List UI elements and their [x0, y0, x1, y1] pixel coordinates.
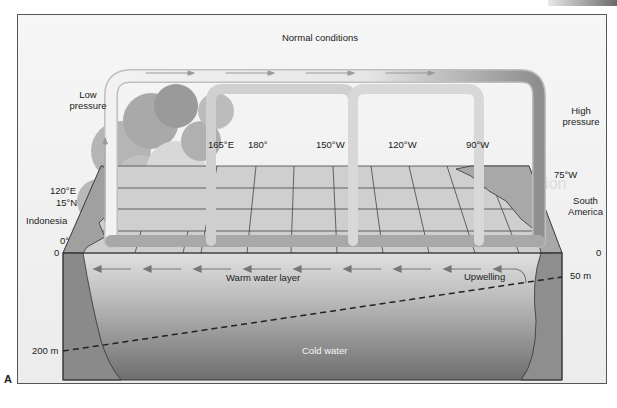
longitude-label: 120°W: [388, 139, 417, 150]
surface-depth-right: 0: [596, 247, 601, 258]
south-america-label: South America: [563, 195, 607, 217]
west-latitude-label: 15°N: [56, 197, 77, 208]
equator-label: 0°: [60, 235, 69, 246]
walker-circulation-diagram: The North Atlantic Oscillation: [18, 15, 606, 383]
longitude-label: 165°E: [208, 139, 234, 150]
indonesia-label: Indonesia: [26, 215, 67, 226]
cold-water-label: Cold water: [302, 345, 347, 356]
longitude-label: 90°W: [466, 139, 489, 150]
east-longitude-label: 75°W: [554, 169, 577, 180]
figure-title: Normal conditions: [270, 32, 370, 43]
longitude-label: 180°: [248, 139, 268, 150]
panel-label: A: [4, 373, 12, 385]
depth-50m-label: 50 m: [570, 270, 591, 281]
west-longitude-label: 120°E: [50, 185, 76, 196]
surface-depth-left: 0: [54, 247, 59, 258]
longitude-label: 150°W: [316, 139, 345, 150]
upwelling-label: Upwelling: [464, 271, 505, 282]
warm-water-layer-label: Warm water layer: [226, 272, 300, 283]
low-pressure-label: Low pressure: [63, 89, 113, 111]
figure-frame: The North Atlantic Oscillation: [17, 14, 607, 384]
page-corner-bar: [548, 0, 617, 6]
depth-200m-label: 200 m: [32, 345, 58, 356]
high-pressure-label: High pressure: [556, 105, 606, 127]
